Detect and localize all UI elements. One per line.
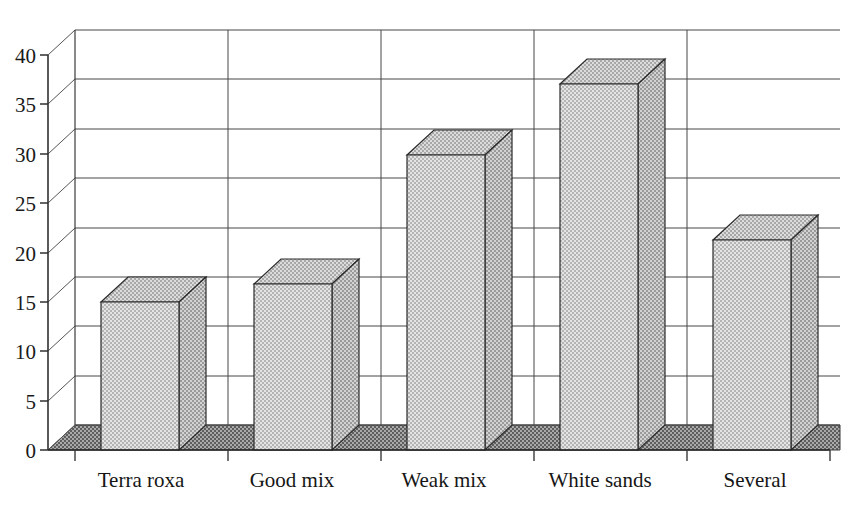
- ytick-label-25: 25: [15, 192, 36, 216]
- ytick-label-40: 40: [15, 44, 36, 68]
- ytick-label-5: 5: [26, 390, 37, 414]
- bar-good-mix: [254, 259, 359, 450]
- bar-weak-mix: [407, 130, 512, 450]
- ytick-label-35: 35: [15, 93, 36, 117]
- bar-several: [713, 215, 818, 450]
- value-axis-tick-labels: 0 5 10 15 20 25 30 35 40: [15, 44, 36, 463]
- ytick-label-0: 0: [26, 439, 37, 463]
- bar-terra-roxa: [101, 277, 206, 450]
- category-label-terra-roxa: Terra roxa: [98, 468, 185, 492]
- category-axis-labels: Terra roxa Good mix Weak mix White sands…: [98, 468, 787, 492]
- category-axis-ticks: [75, 450, 830, 461]
- ytick-label-20: 20: [15, 242, 36, 266]
- bar-chart-figure: 0 5 10 15 20 25 30 35 40: [0, 0, 855, 510]
- ytick-label-15: 15: [15, 291, 36, 315]
- ytick-label-30: 30: [15, 143, 36, 167]
- value-axis-ticks: [40, 55, 48, 450]
- bar-white-sands: [560, 59, 665, 450]
- category-label-weak-mix: Weak mix: [401, 468, 487, 492]
- category-label-white-sands: White sands: [548, 468, 651, 492]
- category-label-good-mix: Good mix: [250, 468, 335, 492]
- category-label-several: Several: [724, 468, 787, 492]
- ytick-label-10: 10: [15, 340, 36, 364]
- depth-connectors: [48, 30, 75, 450]
- chart-canvas: 0 5 10 15 20 25 30 35 40: [0, 0, 855, 510]
